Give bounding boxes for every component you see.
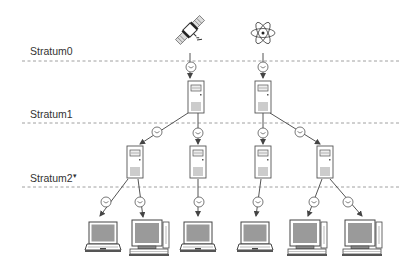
stratum2-server-1 xyxy=(127,146,143,178)
client-laptop-3 xyxy=(237,222,273,252)
ntp-diagram xyxy=(0,0,420,277)
stratum2-server-3 xyxy=(255,146,271,178)
client-desktop-1 xyxy=(129,220,169,256)
client-laptop-2 xyxy=(180,222,216,252)
satellite-icon xyxy=(174,14,212,52)
stratum1-server-1 xyxy=(188,81,204,113)
client-desktop-2 xyxy=(287,220,327,256)
atomic-clock-icon xyxy=(251,20,275,45)
connections xyxy=(100,53,362,217)
client-desktop-3 xyxy=(342,220,382,256)
stratum2-server-2 xyxy=(190,146,206,178)
stratum1-server-2 xyxy=(255,81,271,113)
client-laptop-1 xyxy=(85,222,121,252)
stratum2-server-4 xyxy=(317,146,333,178)
